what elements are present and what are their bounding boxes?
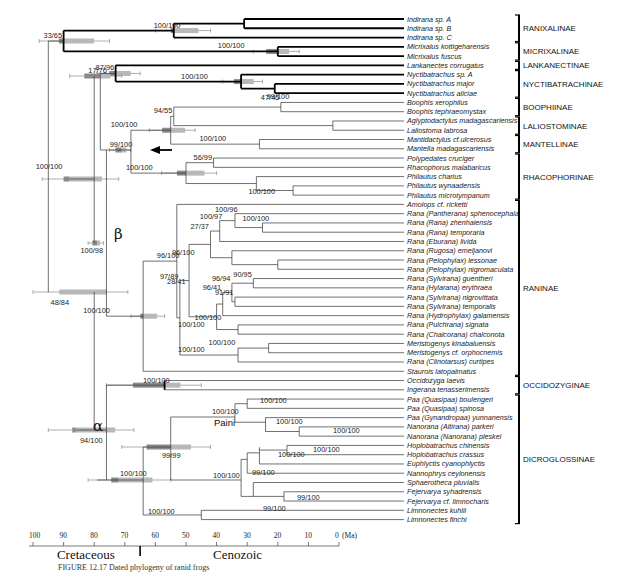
taxon-label: Rana (Chalcorana) chalconota <box>407 330 505 339</box>
taxon-label: Boophis xerophilus <box>407 98 468 107</box>
axis-unit-label: (Ma) <box>342 531 357 540</box>
hpd-bar-older <box>64 177 70 182</box>
support-r16: 100/100 <box>178 345 205 354</box>
support-ranix: 100/100 <box>154 21 181 30</box>
support-values: 100/100100/10033/6599/100100/10087/9647/… <box>36 21 360 516</box>
taxon-label: Aglyptodactylus madagascariensis <box>406 116 518 125</box>
subfamily-label: LANKANECTINAE <box>523 61 590 70</box>
taxon-label: Nanorana (Nanorana) pleskei <box>407 432 502 441</box>
taxon-label: Limnonectes kuhlii <box>407 506 467 515</box>
taxon-label: Sphaerotheca pluvialis <box>407 478 480 487</box>
support-ranixMicr: 33/65 <box>44 31 63 40</box>
taxon-label: Ingerana tenasserimensis <box>407 385 490 394</box>
hpd-bar-older <box>72 428 76 433</box>
support-n_ln: 17/76 <box>88 66 107 75</box>
support-nanorana: 100/100 <box>333 426 360 435</box>
subfamily-label: RANINAE <box>523 284 559 293</box>
taxon-label: Indirana sp. C <box>407 33 453 42</box>
phylogeny-figure: 100/100100/10033/6599/100100/10087/9647/… <box>0 0 632 572</box>
taxon-label: Philautus charius <box>407 172 462 181</box>
support-boo: 47/45 <box>261 93 280 102</box>
taxon-label: Boophis tephraeomystax <box>407 107 487 116</box>
taxon-label: Mantidactylus cf.ulcerosus <box>407 135 492 144</box>
hpd-bar-younger <box>171 445 191 450</box>
axis-tick-label: 20 <box>274 531 282 540</box>
axis-tick-label: 0 <box>335 531 339 540</box>
taxon-label: Staurois latopalmatus <box>407 367 477 376</box>
figure-caption: FIGURE 12.17 Dated phylogeny of ranid fr… <box>58 563 209 572</box>
taxon-label: Rana (Pulchrana) signata <box>407 320 489 329</box>
taxon-label: Paa (Quasipaa) boulengeri <box>407 395 493 404</box>
hpd-bar-older <box>92 241 97 246</box>
taxon-label: Limnonectes finchi <box>407 515 467 524</box>
hpd-bar-younger <box>143 314 157 319</box>
era-label: Cretaceous <box>57 547 115 562</box>
support-dicro: 100/100 <box>120 469 147 478</box>
support-r1: 97/89 <box>160 272 179 281</box>
taxon-label: Euphlyctis cyanophlyctis <box>407 459 485 468</box>
taxon-label: Philautus wynaadensis <box>407 181 481 190</box>
taxon-label: Hoplobatrachus crassus <box>407 450 485 459</box>
taxon-label: Meristogenys cf. orphocnemis <box>407 348 503 357</box>
axis-tick-label: 80 <box>90 531 98 540</box>
taxon-label: Rana (Rana) zhenhaiensis <box>407 218 493 227</box>
taxon-label: Micrixalus kottigeharensis <box>407 42 490 51</box>
support-mantMM: 100/100 <box>199 134 226 143</box>
support-raniMain: 96/100 <box>157 251 180 260</box>
support-r4: 27/37 <box>190 222 209 231</box>
support-beta: 100/98 <box>80 246 103 255</box>
taxon-label: Lankanectes corrugatus <box>407 61 484 70</box>
axis-tick-label: 90 <box>60 531 68 540</box>
taxon-label: Nannophrys ceylonensis <box>407 469 486 478</box>
taxon-label: Rana (Rana) temporaria <box>407 228 485 237</box>
taxon-label: Rana (Eburana) livida <box>407 237 477 246</box>
support-r6: 100/97 <box>200 212 223 221</box>
subfamily-label: DICROGLOSSINAE <box>523 455 595 464</box>
hpd-bar-younger <box>241 79 254 84</box>
support-r13: 96/94 <box>212 274 231 283</box>
support-r14: 90/95 <box>233 270 252 279</box>
hpd-bar-younger <box>171 128 185 133</box>
taxon-label: Nyctibatrachus aliciae <box>407 89 477 98</box>
taxon-label: Fejervarya cf. limnocharis <box>407 497 489 506</box>
axis-tick-label: 30 <box>243 531 251 540</box>
hpd-bar-younger <box>97 241 100 246</box>
subfamily-label: MANTELLINAE <box>523 140 579 149</box>
paini-label: Paini <box>214 417 235 428</box>
support-n_a: 100/100 <box>36 162 63 171</box>
axis-tick-label: 100 <box>29 531 41 540</box>
taxon-label: Occidozyga laevis <box>407 376 465 385</box>
support-rhac: 100/100 <box>126 163 153 172</box>
taxon-label: Nyctibatrachus major <box>407 79 475 88</box>
support-r17: 100/100 <box>209 338 236 347</box>
support-rhacPR: 56/99 <box>194 153 213 162</box>
taxon-label: Rana (Pantherana) sphenocephala <box>407 209 519 218</box>
taxon-label: Rana (Rugosa) emeljanovi <box>407 246 492 255</box>
hpd-bar-older <box>60 290 61 295</box>
subfamily-label: NYCTIBATRACHINAE <box>523 80 603 89</box>
era-label: Cenozoic <box>213 547 262 562</box>
support-dicroglossini: 100/100 <box>213 471 240 480</box>
taxon-label: Rana (Pelophylax) lessonae <box>407 256 497 265</box>
axis-tick-label: 50 <box>182 531 190 540</box>
taxon-label: Indirana sp. B <box>407 24 452 33</box>
support-occid: 100/100 <box>143 376 170 385</box>
subfamily-label: BOOPHIINAE <box>523 103 573 112</box>
taxon-label: Amolops cf. ricketti <box>406 200 468 209</box>
axis-tick-label: 60 <box>151 531 159 540</box>
taxon-label: Paa (Quasipaa) spinosa <box>407 404 484 413</box>
support-gyn: 100/100 <box>276 417 303 426</box>
taxon-label: Mantella madagascariensis <box>407 144 494 153</box>
support-fejervarya: 99/100 <box>297 493 320 502</box>
taxon-label: Nanorana (Altirana) parkeri <box>407 422 494 431</box>
hpd-bar-younger <box>61 290 107 295</box>
taxon-label: Nyctibatrachus sp. A <box>407 70 473 79</box>
support-hoplo-group: 99/100 <box>252 468 275 477</box>
taxon-label: Paa (Gynandropaa) yunnanensis <box>407 413 513 422</box>
axis-tick-label: 40 <box>213 531 221 540</box>
hpd-bar-younger <box>278 49 289 54</box>
support-r11: 96/41 <box>203 283 222 292</box>
support-hoplo-euph: 100/100 <box>278 450 305 459</box>
subfamily-label: MICRIXALINAE <box>523 47 579 56</box>
support-mantRhac: 99/100 <box>110 140 133 149</box>
